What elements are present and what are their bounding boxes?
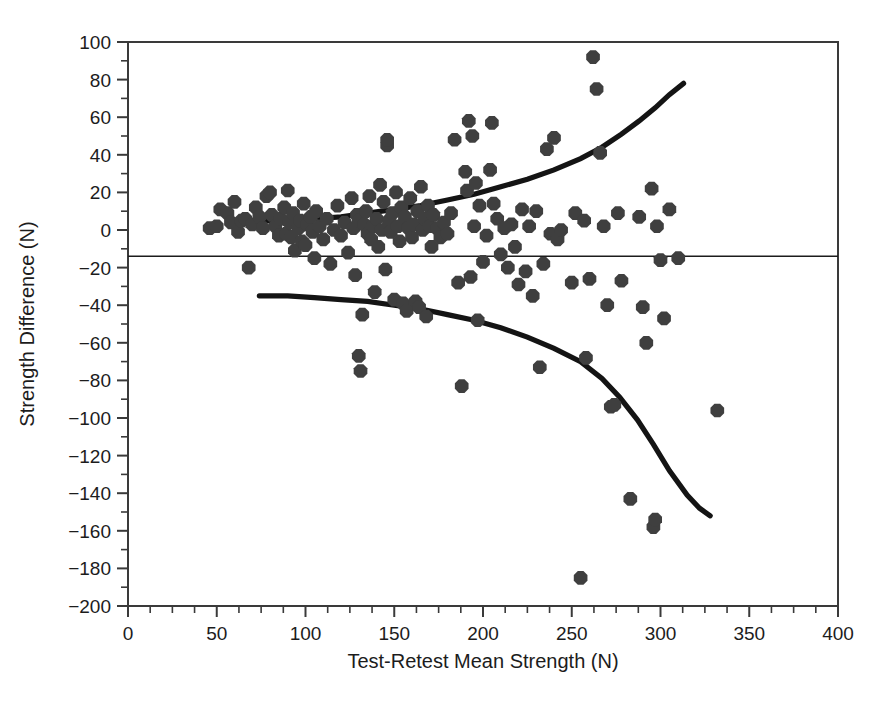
y-tick-label: −80	[79, 370, 111, 391]
data-point	[648, 513, 662, 527]
data-point	[623, 492, 637, 506]
x-tick-label: 100	[290, 623, 322, 644]
data-point	[515, 202, 529, 216]
data-point	[579, 351, 593, 365]
data-point	[529, 204, 543, 218]
y-tick-label: 0	[100, 220, 111, 241]
y-tick-label: −40	[79, 295, 111, 316]
data-point	[574, 571, 588, 585]
data-point	[522, 219, 536, 233]
data-point	[615, 274, 629, 288]
data-point	[373, 178, 387, 192]
data-point	[316, 233, 330, 247]
data-point	[654, 253, 668, 267]
data-point	[354, 364, 368, 378]
data-point	[526, 289, 540, 303]
data-point	[508, 240, 522, 254]
y-tick-label: −60	[79, 333, 111, 354]
data-point	[657, 312, 671, 326]
data-point	[393, 234, 407, 248]
data-point	[467, 219, 481, 233]
y-tick-label: −180	[68, 558, 111, 579]
data-point	[297, 197, 311, 211]
y-tick-label: 40	[90, 145, 111, 166]
data-point	[480, 229, 494, 243]
data-point	[419, 310, 433, 324]
x-tick-label: 0	[123, 623, 134, 644]
data-point	[355, 308, 369, 322]
data-point	[586, 50, 600, 64]
x-tick-label: 50	[206, 623, 227, 644]
data-point	[577, 214, 591, 228]
x-tick-label: 300	[645, 623, 677, 644]
data-point	[464, 270, 478, 284]
y-tick-label: −20	[79, 258, 111, 279]
y-axis-title: Strength Difference (N)	[16, 221, 38, 426]
x-tick-label: 150	[378, 623, 410, 644]
y-tick-label: 20	[90, 182, 111, 203]
data-point	[645, 182, 659, 196]
data-point	[466, 129, 480, 143]
y-tick-label: −160	[68, 521, 111, 542]
data-point	[547, 131, 561, 145]
data-point	[663, 202, 677, 216]
data-point	[533, 360, 547, 374]
data-point	[389, 186, 403, 200]
data-point	[583, 272, 597, 286]
bland-altman-scatter-plot: 050100150200250300350400−200−180−160−140…	[0, 0, 894, 702]
y-tick-label: −100	[68, 408, 111, 429]
data-point	[554, 223, 568, 237]
data-point	[377, 195, 391, 209]
data-point	[512, 278, 526, 292]
data-point	[473, 199, 487, 213]
data-point	[590, 82, 604, 96]
data-point	[348, 268, 362, 282]
data-point	[281, 184, 295, 198]
data-point	[331, 199, 345, 213]
data-point	[600, 298, 614, 312]
data-point	[636, 300, 650, 314]
plot-background	[0, 0, 894, 702]
data-point	[448, 133, 462, 147]
x-axis-title: Test-Retest Mean Strength (N)	[347, 650, 618, 672]
data-point	[242, 261, 256, 275]
data-point	[597, 219, 611, 233]
y-tick-label: −140	[68, 483, 111, 504]
x-tick-label: 350	[733, 623, 765, 644]
data-point	[334, 229, 348, 243]
data-point	[501, 261, 515, 275]
data-point	[471, 313, 485, 327]
data-point	[444, 206, 458, 220]
data-point	[476, 255, 490, 269]
data-point	[345, 191, 359, 205]
y-tick-label: 100	[79, 32, 111, 53]
data-point	[611, 206, 625, 220]
data-point	[593, 146, 607, 160]
data-point	[324, 257, 338, 271]
data-point	[639, 336, 653, 350]
y-tick-label: 60	[90, 107, 111, 128]
data-point	[363, 189, 377, 203]
data-point	[341, 246, 355, 260]
data-point	[458, 165, 472, 179]
data-point	[485, 116, 499, 130]
chart-figure: 050100150200250300350400−200−180−160−140…	[0, 0, 894, 702]
data-point	[352, 349, 366, 363]
data-point	[537, 257, 551, 271]
data-point	[210, 219, 224, 233]
data-point	[469, 176, 483, 190]
y-tick-label: −120	[68, 446, 111, 467]
data-point	[256, 221, 270, 235]
data-point	[371, 240, 385, 254]
data-point	[505, 218, 519, 232]
data-point	[228, 195, 242, 209]
data-point	[710, 404, 724, 418]
data-point	[380, 133, 394, 147]
data-point	[671, 251, 685, 265]
data-point	[462, 114, 476, 128]
data-point	[494, 248, 508, 262]
x-tick-label: 200	[467, 623, 499, 644]
data-point	[632, 210, 646, 224]
data-point	[565, 276, 579, 290]
y-tick-label: −200	[68, 596, 111, 617]
